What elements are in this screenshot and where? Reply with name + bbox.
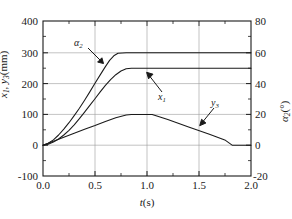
series-label-x1: x1 <box>158 92 166 102</box>
y2tick-label-4: 0 <box>255 140 287 151</box>
chart-figure: 400 300 200 100 0 -100 80 60 40 20 0 -20… <box>0 0 292 219</box>
ytick-label-2: 200 <box>8 78 38 89</box>
x-axis-title: t(s) <box>140 197 155 208</box>
xtick-label-1: 0.5 <box>88 180 102 191</box>
y2-axis-title: α2(°) <box>279 101 290 122</box>
ytick-label-0: 400 <box>8 16 38 27</box>
ytick-label-3: 100 <box>8 109 38 120</box>
y-axis-title: x1, y3(mm) <box>0 51 9 98</box>
arrowhead-y3 <box>200 119 206 125</box>
y2tick-label-2: 40 <box>255 78 287 89</box>
xtick-label-3: 1.5 <box>192 180 206 191</box>
xtick-label-2: 1.0 <box>140 180 154 191</box>
series-label-y3: y3 <box>211 98 219 108</box>
arrowhead-x1 <box>147 72 153 79</box>
ticks-bottom-major <box>95 171 199 176</box>
ticks-top-minor <box>69 21 225 26</box>
ytick-label-4: 0 <box>8 140 38 151</box>
y2tick-label-1: 60 <box>255 47 287 58</box>
ytick-label-5: -100 <box>4 171 38 182</box>
xtick-label-4: 2.0 <box>244 180 258 191</box>
y2tick-label-0: 80 <box>255 16 287 27</box>
xtick-label-0: 0.0 <box>36 180 50 191</box>
ytick-label-1: 300 <box>8 47 38 58</box>
grid-vertical <box>95 21 199 176</box>
series-label-alpha2: α2 <box>74 38 83 48</box>
